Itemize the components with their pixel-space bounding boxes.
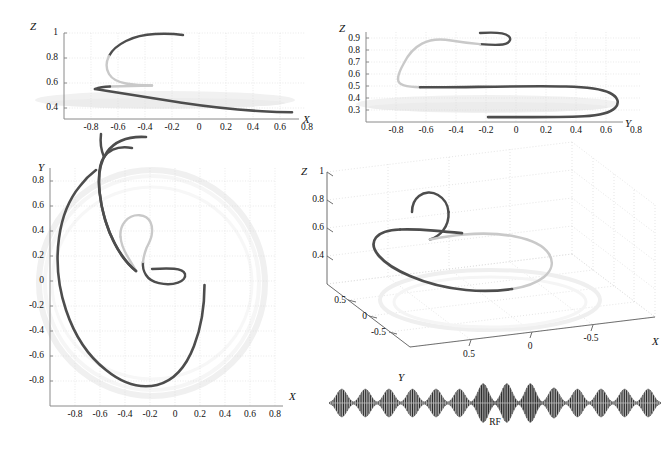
panel-3d-ylabel: Y (398, 371, 404, 383)
sphere-ghost-band-2 (368, 102, 608, 112)
axis-lines-3d (327, 172, 655, 347)
panel-z-vs-y-xtick-8: 0.8 (620, 125, 652, 135)
panel-z-vs-x-ytick-3: 0.4 (34, 102, 58, 112)
panel-y-vs-x-ytick-8: -0.8 (14, 375, 44, 385)
panel-z-vs-y-ytick-0: 0.9 (334, 33, 360, 43)
panel-z-vs-y-ytick-1: 0.8 (334, 45, 360, 55)
panel-z-vs-x-ytick-1: 0.8 (34, 52, 58, 62)
panel-3d-xtick-0: 0.5 (453, 349, 485, 359)
panel-y-vs-x-ytick-5: -0.2 (14, 300, 44, 310)
panel-z-vs-y-xtick-4: 0 (500, 125, 532, 135)
panel-3d-xlabel: X (652, 335, 659, 347)
panel-z-vs-y-xtick-1: -0.6 (410, 125, 442, 135)
panel-y-vs-x-ytick-7: -0.6 (14, 350, 44, 360)
panel-z-vs-y-xtick-6: 0.4 (560, 125, 592, 135)
panel-3d-xtick-1: 0 (514, 341, 546, 351)
panel-z-vs-y: Z Y (318, 0, 672, 148)
panel-z-vs-y-ytick-2: 0.7 (334, 57, 360, 67)
panel-z-vs-x-ytick-0: 1 (34, 27, 58, 37)
panel-y-vs-x-outer-arc (0, 150, 330, 449)
panel-y-vs-x-ytick-2: 0.4 (18, 225, 44, 235)
panel-y-vs-x-ytick-4: 0 (18, 275, 44, 285)
trajectory-outer-spiral (58, 170, 205, 386)
panel-y-vs-x-ytick-3: 0.2 (18, 250, 44, 260)
trajectory-3d (374, 193, 552, 291)
panel-z-vs-y-xtick-0: -0.8 (380, 125, 412, 135)
panel-z-vs-y-ytick-4: 0.5 (334, 81, 360, 91)
panel-y-vs-x-ytick-1: 0.6 (18, 200, 44, 210)
panel-3d-ztick-2: 0.6 (300, 222, 324, 232)
panel-z-vs-y-xtick-5: 0.2 (530, 125, 562, 135)
panel-z-vs-y-ytick-6: 0.3 (334, 105, 360, 115)
panel-3d-ytick-0: 0.5 (322, 295, 346, 305)
rf-label: RF (465, 417, 525, 427)
panel-y-vs-x-ytick-0: 0.8 (18, 175, 44, 185)
panel-y-vs-x-xtick-8: 0.8 (259, 409, 291, 419)
panel-3d-ytick-2: -0.5 (354, 327, 386, 337)
panel-z-vs-y-xtick-7: 0.6 (590, 125, 622, 135)
panel-z-vs-y-xtick-3: -0.2 (470, 125, 502, 135)
panel-3d-zlabel: Z (301, 165, 307, 177)
panel-z-vs-x-ytick-2: 0.6 (34, 77, 58, 87)
panel-z-vs-y-xtick-2: -0.4 (440, 125, 472, 135)
sphere-ghost-equator-2 (394, 277, 586, 327)
panel-3d-ztick-0: 1 (312, 166, 324, 176)
panel-3d-xtick-2: -0.5 (575, 333, 607, 343)
grid-right-wall (572, 142, 655, 317)
rf-pulse-train: RF (330, 383, 660, 439)
panel-z-vs-y-ytick-3: 0.6 (334, 69, 360, 79)
panel-y-vs-x-ytick-6: -0.4 (14, 325, 44, 335)
panel-z-vs-x: Z X (0, 0, 330, 148)
panel-z-vs-y-ytick-5: 0.4 (334, 93, 360, 103)
panel-3d-ytick-1: 0 (343, 311, 367, 321)
panel-y-vs-x: Y X (0, 150, 330, 449)
panel-3d-ztick-3: 0.4 (300, 250, 324, 260)
panel-3d-ztick-1: 0.8 (300, 194, 324, 204)
